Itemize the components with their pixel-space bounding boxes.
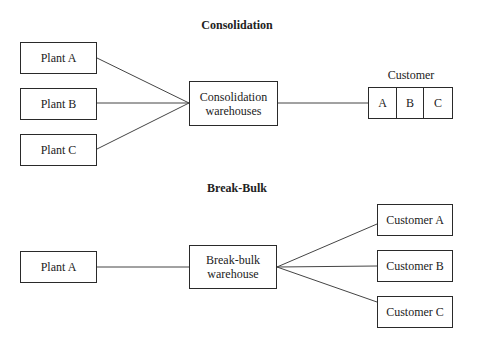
plant-c-box: Plant C (20, 134, 97, 166)
customer-cell-a-label: A (378, 96, 387, 110)
break-bulk-line1: Break-bulk (206, 253, 260, 267)
plant-a-box: Plant A (20, 42, 97, 74)
customer-c-label: Customer C (386, 305, 444, 319)
break-bulk-title: Break-Bulk (187, 181, 287, 196)
customer-label: Customer (368, 68, 454, 83)
customer-a-box: Customer A (377, 204, 453, 236)
consolidation-title: Consolidation (187, 18, 287, 33)
customer-cell-b-label: B (406, 96, 414, 110)
customer-b-label: Customer B (386, 259, 444, 273)
customer-c-box: Customer C (377, 296, 453, 328)
customer-cell-c: C (423, 87, 453, 119)
plant-a-label: Plant A (41, 51, 77, 65)
customer-b-box: Customer B (377, 250, 453, 282)
break-bulk-plant-a-label: Plant A (41, 260, 77, 274)
consolidation-warehouse-box: Consolidation warehouses (189, 81, 278, 126)
customer-a-label: Customer A (386, 213, 444, 227)
break-bulk-plant-a-box: Plant A (20, 251, 97, 283)
warehouse-line1: Consolidation (200, 90, 267, 104)
customer-cell-b: B (396, 87, 425, 119)
customer-cell-c-label: C (434, 96, 442, 110)
break-bulk-warehouse-box: Break-bulk warehouse (189, 245, 277, 289)
plant-b-label: Plant B (41, 97, 77, 111)
plant-c-label: Plant C (41, 143, 77, 157)
warehouse-line2: warehouses (206, 104, 262, 118)
plant-b-box: Plant B (20, 88, 97, 120)
customer-cell-a: A (368, 87, 397, 119)
break-bulk-line2: warehouse (207, 267, 258, 281)
